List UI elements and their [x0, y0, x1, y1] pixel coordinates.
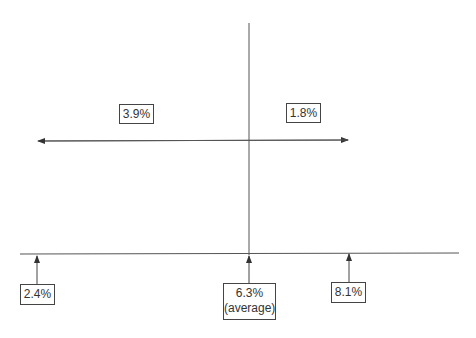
left-spread-label: 3.9%	[119, 104, 154, 124]
average-value: 6.3%	[224, 286, 275, 301]
average-value-label: 6.3% (average)	[223, 283, 276, 320]
range-arrow-left	[38, 140, 348, 141]
baseline	[20, 253, 459, 254]
high-value-label: 8.1%	[331, 282, 366, 303]
low-value-label: 2.4%	[20, 284, 55, 305]
average-note: (average)	[224, 301, 275, 316]
right-spread-label: 1.8%	[286, 103, 321, 123]
